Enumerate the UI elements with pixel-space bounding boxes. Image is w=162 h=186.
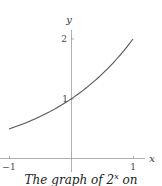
y-tick-label-1: 1 — [62, 94, 68, 104]
x-tick-label-neg1: −1 — [2, 162, 15, 172]
figure-caption: The graph of 2x on — [0, 172, 162, 186]
caption-prefix: The graph of 2 — [25, 173, 115, 186]
caption-suffix: on — [119, 173, 138, 186]
y-tick-label-2: 2 — [61, 34, 67, 44]
x-tick-label-1: 1 — [130, 162, 136, 172]
function-plot: y x 2 1 −1 1 — [0, 0, 162, 172]
x-axis-label: x — [149, 153, 155, 164]
curve-2-pow-x — [9, 39, 133, 129]
y-axis-label: y — [65, 14, 72, 25]
